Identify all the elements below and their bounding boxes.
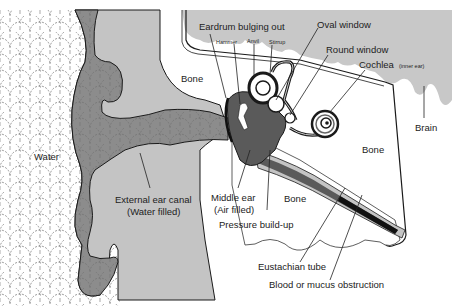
label-external-canal: External ear canal (115, 194, 192, 205)
label-external-canal-note: (Water filled) (127, 206, 181, 217)
label-bone-right: Bone (362, 144, 384, 155)
label-brain: Brain (415, 122, 437, 133)
label-cochlea: Cochlea (359, 59, 395, 70)
ear-diagram: Water Bone Bone Bone Brain Eardrum bulgi… (0, 0, 452, 306)
label-middle-ear-note: (Air filled) (214, 204, 254, 215)
label-obstruction: Blood or mucus obstruction (269, 279, 384, 290)
oval-window (268, 96, 284, 112)
label-cochlea-note: (inner ear) (399, 63, 425, 69)
label-bone-lower: Bone (284, 193, 306, 204)
label-hammer: Hammer (216, 39, 237, 45)
label-round-window: Round window (326, 44, 388, 55)
label-anvil: Anvil (247, 38, 259, 44)
label-water: Water (34, 151, 59, 162)
label-bone-upper: Bone (181, 73, 203, 84)
cochlea (312, 111, 338, 137)
label-eustachian: Eustachian tube (258, 261, 326, 272)
label-eardrum: Eardrum bulging out (199, 21, 285, 32)
label-middle-ear: Middle ear (211, 192, 255, 203)
label-oval-window: Oval window (317, 19, 371, 30)
ear-diagram-svg: Water Bone Bone Bone Brain Eardrum bulgi… (0, 0, 452, 306)
label-stirrup: Stirrup (269, 39, 285, 45)
label-pressure: Pressure build-up (219, 219, 293, 230)
